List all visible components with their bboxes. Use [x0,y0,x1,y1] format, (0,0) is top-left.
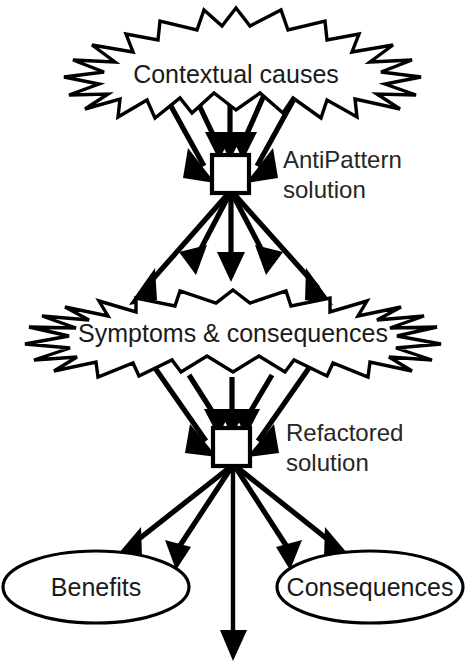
edge-line [145,195,227,288]
edge-line [235,195,318,288]
refactored-solution-box [213,428,250,466]
edge-group-antipattern-to-symptoms [129,195,333,305]
symptoms-consequences-label: Symptoms & consequences [78,319,388,347]
antipattern-solution-box [212,155,249,193]
refactored-solution-label-line2: solution [286,449,369,476]
consequences-label: Consequences [287,573,454,601]
arrow-head-icon [179,245,207,275]
diagram-canvas: Contextual causes AntiPattern solution S… [0,0,466,671]
refactored-solution-label-line1: Refactored [286,419,403,446]
arrow-head-icon [255,245,283,275]
edge-line [236,468,289,550]
arrow-head-icon [217,252,245,282]
edge-line [238,468,336,546]
arrow-head-icon [220,630,247,661]
contextual-causes-label: Contextual causes [133,60,339,88]
edge-line [155,368,206,441]
edge-line [177,468,231,550]
benefits-label: Benefits [51,573,141,601]
antipattern-solution-label-line1: AntiPattern [283,146,402,173]
edge-line [130,468,229,546]
antipattern-template-diagram: Contextual causes AntiPattern solution S… [0,0,466,671]
antipattern-solution-label-line2: solution [283,176,366,203]
